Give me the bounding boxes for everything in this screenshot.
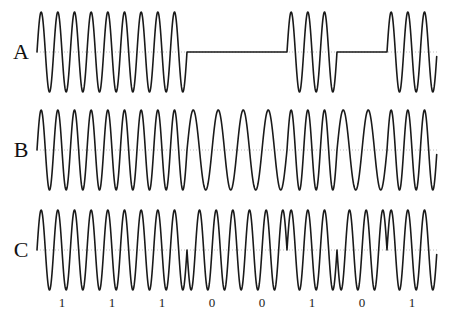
bit-label: 0: [202, 296, 222, 309]
row-label-a: A: [8, 41, 34, 63]
row-label-b: B: [8, 139, 34, 161]
bit-label: 0: [352, 296, 372, 309]
row-B-group: [37, 110, 437, 190]
bit-label: 1: [52, 296, 72, 309]
bit-label: 0: [252, 296, 272, 309]
waveform-figure: A B C 11100101: [0, 0, 454, 315]
bit-label: 1: [152, 296, 172, 309]
row-label-c: C: [8, 239, 34, 261]
row-A-group: [37, 12, 437, 92]
bit-label: 1: [302, 296, 322, 309]
bit-label: 1: [102, 296, 122, 309]
row-C-group: [37, 210, 437, 290]
row-A-waveform: [37, 12, 437, 92]
bit-label: 1: [402, 296, 422, 309]
waveform-canvas: [0, 0, 454, 315]
